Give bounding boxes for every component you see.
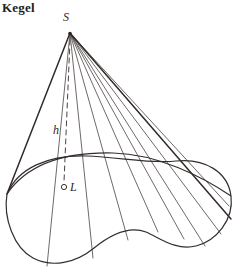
generator-line [70, 33, 205, 246]
silhouette-edge-right [70, 33, 231, 219]
base-back-rim-arc [7, 153, 231, 196]
generator-line [70, 33, 93, 258]
cone-figure: Kegel S h L [0, 0, 240, 271]
center-point-label: L [70, 181, 77, 193]
silhouette-edges [7, 33, 231, 219]
generator-lines [47, 33, 229, 266]
generator-line [47, 33, 70, 266]
center-point-marker [61, 184, 66, 189]
apex-point-marker [68, 32, 72, 36]
cone-drawing [0, 0, 240, 271]
height-label: h [53, 124, 59, 136]
apex-label: S [63, 11, 69, 23]
silhouette-edge-left [7, 33, 70, 194]
generator-line [70, 33, 184, 239]
